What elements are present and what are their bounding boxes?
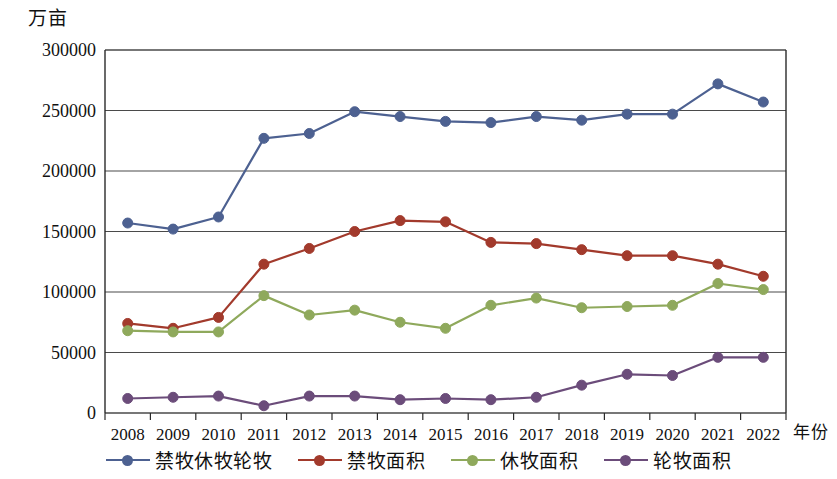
data-point-marker [577, 245, 587, 255]
data-point-marker [259, 133, 269, 143]
data-point-marker [531, 239, 541, 249]
data-point-marker [758, 271, 768, 281]
data-point-marker [304, 310, 314, 320]
data-point-marker [758, 97, 768, 107]
data-point-marker [713, 259, 723, 269]
line-chart-plot: 0500001000001500002000002500003000002008… [0, 0, 837, 479]
x-axis-tick-label: 2010 [202, 425, 236, 444]
x-axis-tick-label: 2012 [292, 425, 326, 444]
y-axis-tick-label: 250000 [42, 101, 96, 121]
data-point-marker [214, 327, 224, 337]
data-point-marker [259, 259, 269, 269]
legend-item-jinmu-xiumu-lunmu[interactable]: 禁牧休牧轮牧 [106, 446, 272, 473]
x-axis-tick-label: 2014 [383, 425, 418, 444]
series-line [128, 221, 764, 329]
data-point-marker [668, 109, 678, 119]
data-point-marker [395, 112, 405, 122]
data-point-marker [758, 285, 768, 295]
legend-item-xiumu-mianji[interactable]: 休牧面积 [451, 446, 578, 473]
legend-marker-icon [604, 453, 648, 467]
legend-marker-icon [298, 453, 342, 467]
y-axis-tick-label: 300000 [42, 40, 96, 60]
series-line [128, 84, 764, 229]
data-point-marker [622, 302, 632, 312]
legend-dot [467, 455, 478, 466]
data-point-marker [577, 115, 587, 125]
chart-figure: 万亩 0500001000001500002000002500003000002… [0, 0, 837, 479]
legend-label: 轮牧面积 [653, 446, 731, 473]
data-point-marker [441, 116, 451, 126]
data-point-marker [486, 118, 496, 128]
data-point-marker [531, 293, 541, 303]
data-point-marker [758, 352, 768, 362]
data-point-marker [441, 323, 451, 333]
data-point-marker [168, 224, 178, 234]
data-point-marker [531, 392, 541, 402]
y-axis-tick-label: 150000 [42, 222, 96, 242]
data-point-marker [713, 279, 723, 289]
data-point-marker [123, 218, 133, 228]
x-axis-tick-label: 2015 [429, 425, 463, 444]
y-axis-tick-label: 0 [87, 403, 96, 423]
data-point-marker [168, 327, 178, 337]
x-axis-tick-label: 2018 [565, 425, 599, 444]
data-point-marker [441, 393, 451, 403]
data-point-marker [577, 303, 587, 313]
data-point-marker [123, 393, 133, 403]
y-axis-tick-label: 50000 [51, 343, 96, 363]
data-point-marker [350, 227, 360, 237]
x-axis-tick-label: 2020 [656, 425, 690, 444]
legend-label: 禁牧休牧轮牧 [155, 446, 272, 473]
data-point-marker [214, 312, 224, 322]
data-point-marker [622, 251, 632, 261]
x-axis-tick-label: 2008 [111, 425, 145, 444]
x-axis-tick-label: 2013 [338, 425, 372, 444]
x-axis-unit-label: 年份 [793, 418, 828, 443]
data-point-marker [350, 305, 360, 315]
data-point-marker [395, 317, 405, 327]
legend-label: 禁牧面积 [347, 446, 425, 473]
data-point-marker [304, 243, 314, 253]
legend-item-jinmu-mianji[interactable]: 禁牧面积 [298, 446, 425, 473]
x-axis-tick-label: 2019 [610, 425, 644, 444]
x-axis-tick-label: 2011 [247, 425, 280, 444]
data-point-marker [622, 369, 632, 379]
x-axis-tick-label: 2022 [746, 425, 780, 444]
data-point-marker [486, 395, 496, 405]
data-point-marker [259, 291, 269, 301]
y-axis-tick-label: 100000 [42, 282, 96, 302]
legend-item-lunmu-mianji[interactable]: 轮牧面积 [604, 446, 731, 473]
data-point-marker [259, 401, 269, 411]
data-point-marker [486, 237, 496, 247]
legend-label: 休牧面积 [500, 446, 578, 473]
x-axis-tick-label: 2016 [474, 425, 508, 444]
data-point-marker [441, 217, 451, 227]
data-point-marker [350, 107, 360, 117]
legend-dot [122, 455, 133, 466]
legend-marker-icon [106, 453, 150, 467]
data-series [123, 352, 769, 410]
data-point-marker [304, 391, 314, 401]
chart-legend: 禁牧休牧轮牧 禁牧面积 休牧面积 轮牧面积 [0, 446, 837, 473]
data-series [123, 79, 769, 234]
data-point-marker [577, 380, 587, 390]
data-point-marker [622, 109, 632, 119]
data-point-marker [668, 370, 678, 380]
data-point-marker [214, 391, 224, 401]
data-point-marker [214, 212, 224, 222]
data-point-marker [395, 216, 405, 226]
data-point-marker [304, 128, 314, 138]
data-series [123, 216, 769, 334]
data-series [123, 279, 769, 337]
data-point-marker [395, 395, 405, 405]
data-point-marker [486, 300, 496, 310]
legend-dot [620, 455, 631, 466]
x-axis-tick-label: 2021 [701, 425, 735, 444]
x-axis-tick-label: 2009 [156, 425, 190, 444]
legend-dot [314, 455, 325, 466]
data-point-marker [350, 391, 360, 401]
y-axis-tick-label: 200000 [42, 161, 96, 181]
data-point-marker [668, 251, 678, 261]
data-point-marker [713, 352, 723, 362]
legend-marker-icon [451, 453, 495, 467]
